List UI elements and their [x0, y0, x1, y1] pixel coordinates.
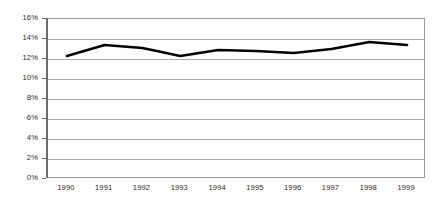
plot-area — [47, 18, 425, 178]
line-chart: 0%2%4%6%8%10%12%14%16% 19901991199219931… — [0, 0, 444, 218]
x-axis-tick-label: 1991 — [84, 183, 124, 192]
gridline — [48, 159, 424, 160]
y-axis-tick-label: 4% — [0, 134, 38, 142]
y-axis-tick — [42, 78, 46, 79]
x-axis-tick-label: 1994 — [197, 183, 237, 192]
y-axis-tick-label: 2% — [0, 154, 38, 162]
gridline — [48, 79, 424, 80]
y-axis-tick — [42, 58, 46, 59]
x-axis-tick-label: 1997 — [311, 183, 351, 192]
y-axis-tick-label: 8% — [0, 94, 38, 102]
y-axis-tick — [42, 18, 46, 19]
y-axis-tick-label: 6% — [0, 114, 38, 122]
gridline — [48, 39, 424, 40]
y-axis-tick-label: 16% — [0, 14, 38, 22]
x-axis-labels: 1990199119921993199419951996199719981999 — [47, 183, 425, 197]
x-axis-tick-label: 1992 — [122, 183, 162, 192]
gridline — [48, 119, 424, 120]
y-axis-tick — [42, 38, 46, 39]
x-axis-tick-label: 1990 — [46, 183, 86, 192]
y-axis-tick — [42, 118, 46, 119]
y-axis-tick-label: 14% — [0, 34, 38, 42]
series-line-path — [67, 42, 407, 56]
y-axis-tick — [42, 98, 46, 99]
gridline — [48, 59, 424, 60]
gridline — [48, 139, 424, 140]
x-axis-tick-label: 1999 — [386, 183, 426, 192]
gridline — [48, 99, 424, 100]
y-axis-tick-label: 10% — [0, 74, 38, 82]
y-axis-tick — [42, 138, 46, 139]
x-axis-tick-label: 1993 — [159, 183, 199, 192]
x-axis-tick-label: 1995 — [235, 183, 275, 192]
value-axis — [46, 18, 48, 178]
y-axis-tick-label: 12% — [0, 54, 38, 62]
x-axis-tick-label: 1996 — [273, 183, 313, 192]
y-axis-tick — [42, 178, 46, 179]
x-axis-tick-label: 1998 — [348, 183, 388, 192]
y-axis-tick-label: 0% — [0, 174, 38, 182]
y-axis-tick — [42, 158, 46, 159]
